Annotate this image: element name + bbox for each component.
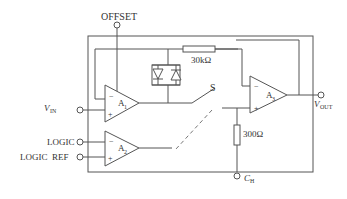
- logic-ref-label: LOGIC REF: [20, 152, 69, 162]
- svg-text:+: +: [254, 104, 259, 113]
- svg-text:IN: IN: [50, 108, 57, 114]
- offset-label: OFFSET: [101, 11, 137, 22]
- schematic: OFFSET − + A 1 V IN 30kΩ S − + A 3 V OUT…: [0, 0, 347, 199]
- svg-text:−: −: [109, 92, 114, 101]
- logic-pin[interactable]: [77, 139, 83, 145]
- svg-text:S: S: [210, 82, 216, 93]
- svg-text:30kΩ: 30kΩ: [191, 55, 212, 65]
- ch-pin[interactable]: [234, 173, 240, 179]
- svg-text:−: −: [109, 137, 114, 146]
- svg-text:+: +: [108, 110, 113, 119]
- logic-label: LOGIC: [47, 137, 75, 147]
- svg-text:OUT: OUT: [320, 104, 333, 110]
- offset-pin[interactable]: [114, 22, 120, 28]
- svg-text:3: 3: [272, 96, 275, 102]
- svg-text:300Ω: 300Ω: [243, 129, 264, 139]
- svg-text:1: 1: [124, 104, 127, 110]
- svg-text:H: H: [250, 178, 255, 184]
- svg-text:−: −: [254, 82, 259, 91]
- resistor-300: [234, 125, 240, 145]
- svg-text:+: +: [108, 154, 113, 163]
- resistor-30k: [183, 46, 215, 52]
- svg-text:2: 2: [124, 149, 127, 155]
- vout-pin[interactable]: [318, 92, 324, 98]
- vin-pin[interactable]: [77, 107, 83, 113]
- logic-ref-pin[interactable]: [77, 154, 83, 160]
